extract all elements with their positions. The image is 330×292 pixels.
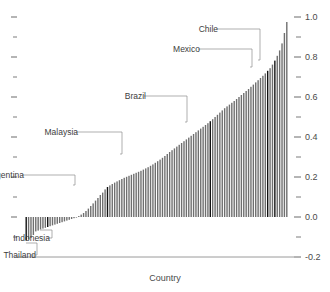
- bar: [52, 217, 53, 225]
- bar: [286, 22, 287, 217]
- bar-highlighted: [274, 61, 275, 217]
- bar: [157, 161, 158, 217]
- bar: [219, 113, 220, 217]
- bar-highlighted: [47, 217, 48, 227]
- bar: [195, 132, 196, 217]
- bar: [214, 117, 215, 217]
- bar: [200, 129, 201, 217]
- bar: [231, 103, 232, 217]
- bar: [109, 185, 110, 217]
- bar: [66, 217, 67, 221]
- bar: [155, 163, 156, 217]
- bar-highlighted: [267, 71, 268, 217]
- annotation-leader-line: [22, 175, 75, 185]
- x-axis-title: Country: [149, 273, 181, 283]
- bar: [90, 206, 91, 217]
- bar: [186, 139, 187, 217]
- right-axis-tick-label: -0.2: [305, 252, 321, 262]
- bar: [54, 217, 55, 225]
- bar: [100, 195, 101, 217]
- bar-highlighted: [107, 187, 108, 217]
- bar: [265, 73, 266, 217]
- bar: [135, 173, 136, 217]
- bar: [171, 150, 172, 217]
- bar: [119, 180, 120, 217]
- bar: [241, 95, 242, 217]
- bar-chart: 1.00.80.60.40.20.0-0.2 ThailandIndonesia…: [0, 0, 330, 292]
- right-axis-tick-label: 0.0: [305, 212, 318, 222]
- bar: [238, 97, 239, 217]
- bar: [114, 183, 115, 217]
- bar: [131, 175, 132, 217]
- bar: [78, 216, 79, 217]
- bar: [255, 82, 256, 217]
- bar: [253, 85, 254, 217]
- annotation-label-malaysia: Malaysia: [44, 127, 78, 137]
- bar: [272, 65, 273, 217]
- bar: [260, 78, 261, 217]
- annotation-leader-line: [198, 49, 252, 67]
- bar: [128, 176, 129, 217]
- bar: [217, 115, 218, 217]
- bar: [121, 179, 122, 217]
- bar: [40, 217, 41, 229]
- annotation-label-argentina: Argentina: [0, 170, 24, 180]
- bar: [229, 105, 230, 217]
- bar: [277, 56, 278, 217]
- bar: [262, 76, 263, 217]
- bar: [226, 106, 227, 217]
- right-axis-tick-label: 0.2: [305, 172, 318, 182]
- bar: [49, 217, 50, 226]
- bar: [126, 177, 127, 217]
- bar: [97, 198, 98, 217]
- bar: [124, 178, 125, 217]
- bar: [35, 217, 36, 231]
- bar: [85, 211, 86, 217]
- annotation-leader-line: [76, 132, 122, 154]
- bar: [164, 156, 165, 217]
- bar: [207, 123, 208, 217]
- bar: [102, 193, 103, 217]
- bar: [69, 217, 70, 220]
- bar: [152, 164, 153, 217]
- right-axis-tick-label: 0.8: [305, 52, 318, 62]
- annotation-label-thailand: Thailand: [3, 250, 36, 260]
- bar: [202, 127, 203, 217]
- bar: [150, 166, 151, 217]
- bar: [37, 217, 38, 231]
- bar: [281, 43, 282, 217]
- bar: [42, 217, 43, 229]
- bar: [176, 147, 177, 217]
- annotation-label-brazil: Brazil: [125, 91, 146, 101]
- right-axis-tick-label: 0.4: [305, 132, 318, 142]
- bar: [162, 158, 163, 217]
- bar: [224, 108, 225, 217]
- annotations-group: ThailandIndonesiaArgentinaMalaysiaBrazil…: [0, 24, 260, 260]
- bar: [61, 217, 62, 222]
- bar: [284, 33, 285, 217]
- bar: [76, 217, 77, 218]
- bar: [95, 201, 96, 217]
- annotation-label-mexico: Mexico: [173, 44, 200, 54]
- bar: [183, 141, 184, 217]
- chart-container: 1.00.80.60.40.20.0-0.2 ThailandIndonesia…: [0, 0, 330, 292]
- bar: [188, 138, 189, 217]
- bar: [269, 68, 270, 217]
- bar: [234, 101, 235, 217]
- annotation-leader-line: [144, 96, 187, 122]
- bar: [279, 50, 280, 217]
- bar: [198, 130, 199, 217]
- right-axis-tick-label: 0.6: [305, 92, 318, 102]
- bar: [167, 154, 168, 217]
- bar: [45, 217, 46, 228]
- annotation-label-indonesia: Indonesia: [13, 233, 50, 243]
- bar: [133, 174, 134, 217]
- bar: [83, 213, 84, 217]
- right-axis-tick-labels: 1.00.80.60.40.20.0-0.2: [305, 12, 321, 262]
- bar: [190, 136, 191, 217]
- right-axis-ticks: [294, 17, 301, 257]
- bar: [71, 217, 72, 219]
- bar: [250, 87, 251, 217]
- bar: [193, 134, 194, 217]
- bar: [145, 168, 146, 217]
